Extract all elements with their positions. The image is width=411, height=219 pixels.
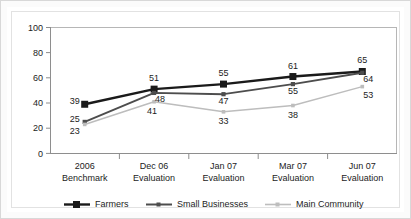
y-tick-label-40: 40	[33, 98, 43, 108]
value-label-small-businesses-1: 48	[155, 94, 165, 104]
value-label-small-businesses-4: 64	[363, 74, 373, 84]
chart-figure: 100 80 60 40 20 0 2006 Benchmark Dec 06 …	[0, 0, 411, 219]
value-label-main-community-0: 23	[70, 126, 80, 136]
data-point-main-community-3	[291, 104, 295, 108]
legend-item-small-businesses[interactable]: Small Businesses	[146, 199, 249, 209]
x-label-mar07-line2: Evaluation	[272, 173, 314, 183]
x-label-dec06-line1: Dec 06	[140, 161, 169, 171]
y-axis	[46, 27, 51, 154]
line-chart: 100 80 60 40 20 0 2006 Benchmark Dec 06 …	[7, 7, 411, 219]
value-label-farmers-4: 65	[357, 55, 367, 65]
y-tick-label-100: 100	[28, 23, 43, 33]
chart-legend: Farmers Small Businesses Main Community	[64, 199, 364, 209]
value-label-farmers-3: 61	[288, 61, 298, 71]
x-category-labels: 2006 Benchmark Dec 06 Evaluation Jan 07 …	[62, 161, 383, 183]
legend-label-farmers: Farmers	[95, 199, 129, 209]
data-point-farmers-2	[220, 81, 227, 88]
x-label-jun07-line1: Jun 07	[349, 161, 376, 171]
value-label-main-community-2: 33	[218, 116, 228, 126]
x-label-jan07-line1: Jan 07	[210, 161, 237, 171]
y-tick-label-20: 20	[33, 123, 43, 133]
value-label-small-businesses-2: 47	[218, 96, 228, 106]
data-point-main-community-0	[83, 123, 87, 127]
value-label-small-businesses-3: 55	[288, 86, 298, 96]
data-point-main-community-4	[361, 85, 365, 89]
x-label-jan07-line2: Evaluation	[202, 173, 244, 183]
x-axis	[50, 154, 397, 160]
x-label-dec06-line2: Evaluation	[133, 173, 175, 183]
y-tick-labels: 100 80 60 40 20 0	[28, 23, 43, 159]
y-tick-label-80: 80	[33, 48, 43, 58]
value-label-main-community-1: 41	[147, 106, 157, 116]
x-label-mar07-line1: Mar 07	[279, 161, 307, 171]
value-label-farmers-1: 51	[149, 73, 159, 83]
legend-marker-farmers	[73, 201, 80, 208]
data-point-farmers-0	[81, 101, 88, 108]
x-label-jun07-line2: Evaluation	[341, 173, 383, 183]
y-tick-label-60: 60	[33, 73, 43, 83]
legend-label-small-businesses: Small Businesses	[177, 199, 249, 209]
x-label-2006-line1: 2006	[75, 161, 95, 171]
value-label-farmers-2: 55	[218, 68, 228, 78]
data-point-farmers-3	[289, 73, 296, 80]
value-label-main-community-3: 38	[288, 110, 298, 120]
legend-label-main-community: Main Community	[296, 199, 364, 209]
data-point-main-community-2	[222, 110, 226, 114]
value-label-farmers-0: 39	[70, 96, 80, 106]
legend-item-main-community[interactable]: Main Community	[265, 199, 364, 209]
legend-marker-main-community	[276, 203, 280, 207]
legend-marker-small-businesses	[157, 203, 161, 207]
legend-item-farmers[interactable]: Farmers	[64, 199, 129, 209]
value-label-main-community-4: 53	[363, 90, 373, 100]
value-label-small-businesses-0: 25	[70, 114, 80, 124]
x-label-2006-line2: Benchmark	[62, 173, 108, 183]
y-tick-label-0: 0	[38, 149, 43, 159]
plot-area-border	[50, 28, 397, 154]
